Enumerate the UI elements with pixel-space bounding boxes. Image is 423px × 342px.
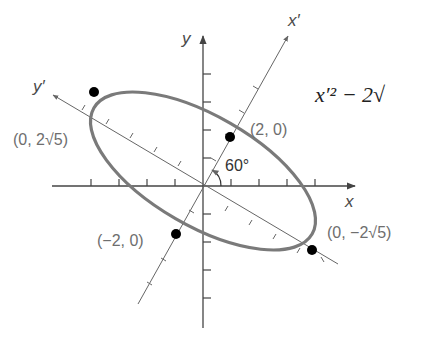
point-label-2-0: (2, 0) [250, 121, 287, 138]
angle-label: 60° [225, 157, 249, 174]
point-label-0-neg2root5: (0, −2√5) [327, 224, 391, 241]
point-0-neg2root5 [307, 245, 317, 255]
y-axis [203, 36, 211, 328]
y-axis-label: y [181, 29, 192, 48]
point-0-2root5 [89, 87, 99, 97]
point-neg2-0 [171, 229, 181, 239]
rotated-ellipse-diagram: y x x′ y′ 60° (2, 0) (−2, 0) (0, 2√5) (0… [0, 0, 423, 342]
x-prime-axis-label: x′ [287, 11, 301, 30]
angle-arc [212, 170, 221, 186]
equation-fragment: x′² − 2√ [314, 82, 386, 107]
point-label-0-2root5: (0, 2√5) [13, 131, 68, 148]
point-2-0 [225, 132, 235, 142]
x-axis-label: x [344, 192, 354, 211]
y-prime-axis-label: y′ [32, 77, 46, 96]
y-prime-axis [53, 95, 338, 264]
point-label-neg2-0: (−2, 0) [97, 232, 144, 249]
